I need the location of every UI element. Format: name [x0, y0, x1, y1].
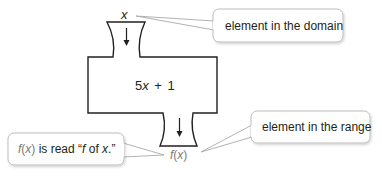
notation-callout-pointer [123, 143, 164, 157]
notation-of: of [85, 142, 102, 156]
output-label: f(x) [170, 149, 187, 161]
notation-end: .” [108, 142, 115, 156]
range-callout-pointer [201, 125, 252, 152]
domain-callout-text: element in the domain [225, 20, 343, 32]
output-close: ) [183, 148, 187, 162]
notation-mid: is read “ [35, 142, 82, 156]
input-label: x [121, 8, 128, 21]
notation-callout-text: f(x) is read “f of x.” [18, 143, 115, 155]
domain-callout-pointer [136, 16, 214, 30]
rule-constant: 1 [168, 78, 175, 93]
range-callout-text: element in the range [262, 121, 371, 133]
rule-operator: + [154, 78, 162, 93]
rule-variable: x [142, 78, 149, 93]
function-rule: 5x + 1 [135, 79, 175, 92]
